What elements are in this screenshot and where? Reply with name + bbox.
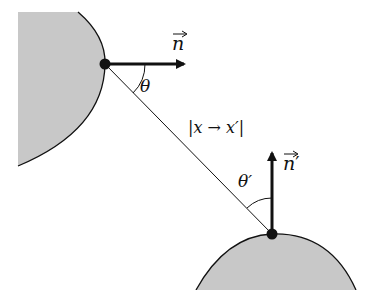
angle-label-theta-prime: θ′	[238, 171, 252, 191]
point-x	[100, 59, 111, 70]
angle-label-theta: θ	[140, 76, 150, 96]
distance-line	[105, 64, 272, 234]
diagram-svg	[0, 0, 372, 290]
angle-arc-theta-prime	[247, 198, 272, 208]
diagram-canvas: n n′ θ θ′ |x → x′|	[0, 0, 372, 290]
surface-top-left	[18, 12, 105, 166]
vector-arrow-icon	[172, 30, 188, 38]
surface-bottom-right	[196, 234, 356, 290]
normal-label-1: n	[172, 32, 184, 54]
point-x-prime	[267, 229, 278, 240]
vector-arrow-icon	[283, 150, 299, 158]
distance-label: |x → x′|	[188, 118, 244, 137]
normal-label-2: n′	[283, 152, 300, 174]
